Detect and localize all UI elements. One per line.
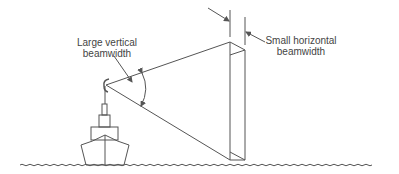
horizontal-beamwidth-label: Small horizontal beamwidth [262,35,340,57]
ship [81,86,129,165]
vertical-label-line1: Large vertical [72,37,142,48]
horizontal-arrow-left [208,8,229,21]
radar-beam [106,42,245,160]
vertical-label-leader [114,56,132,82]
horizontal-label-line1: Small horizontal [262,35,340,46]
vertical-beamwidth-label: Large vertical beamwidth [72,37,142,59]
radar-beam-diagram [0,0,399,174]
vertical-beamwidth-arc [141,73,146,106]
vertical-label-line2: beamwidth [72,48,142,59]
horizontal-label-line2: beamwidth [262,46,340,57]
sea-surface [20,164,372,166]
